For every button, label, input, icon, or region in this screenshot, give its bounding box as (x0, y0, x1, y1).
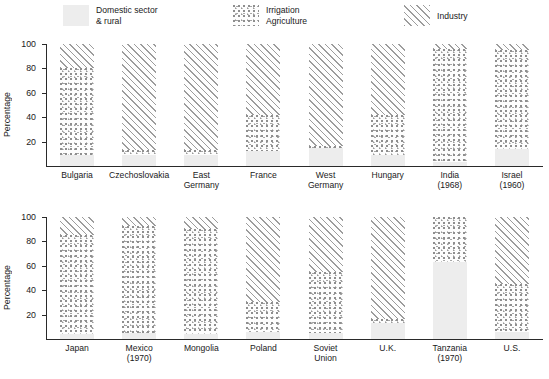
bar-mexico-1970 (122, 217, 156, 339)
x-axis-label: Israel (1960) (476, 170, 548, 191)
bar-segment-industry (309, 217, 343, 272)
bar-india-1968 (433, 44, 467, 166)
y-axis-tick-label: 60 (26, 261, 36, 270)
bar-poland (246, 217, 280, 339)
bar-segment-domestic (309, 333, 343, 339)
bar-segment-domestic (495, 149, 529, 166)
bar-segment-industry (122, 44, 156, 150)
bar-segment-domestic (371, 155, 405, 166)
y-axis-tick-label: 60 (26, 88, 36, 97)
bar-segment-industry (60, 217, 94, 235)
bar-segment-agriculture (309, 272, 343, 333)
y-axis-tick-label: 20 (26, 137, 36, 146)
bar-segment-domestic (371, 323, 405, 339)
bar-japan (60, 217, 94, 339)
bar-segment-industry (122, 217, 156, 226)
chart-legend: Domestic sector & rural Irrigation Agric… (0, 0, 549, 34)
bar-segment-agriculture (495, 284, 529, 332)
y-axis-tick-label: 100 (21, 40, 36, 49)
legend-item-irrigation-agriculture: Irrigation Agriculture (233, 5, 307, 26)
bar-u-k (371, 217, 405, 339)
bar-segment-industry (495, 217, 529, 284)
bar-group-top (46, 44, 543, 166)
legend-swatch-domestic-icon (63, 5, 89, 26)
bar-segment-agriculture (246, 302, 280, 331)
bar-segment-agriculture (495, 50, 529, 149)
bar-segment-agriculture (371, 115, 405, 155)
bar-bulgaria (60, 44, 94, 166)
chart-panel-top: Percentage 20406080100 BulgariaCzechoslo… (0, 36, 549, 198)
y-axis-tick-label: 40 (26, 286, 36, 295)
bar-segment-industry (184, 44, 218, 150)
y-axis-tick-label: 80 (26, 237, 36, 246)
bar-segment-industry (60, 44, 94, 68)
y-axis-tick-label: 80 (26, 64, 36, 73)
x-axis-labels-bottom: JapanMexico (1970)MongoliaPolandSoviet U… (46, 343, 543, 369)
bar-segment-domestic (433, 162, 467, 166)
y-axis-tick-label: 100 (21, 213, 36, 222)
bar-segment-domestic (309, 148, 343, 166)
bar-israel-1960 (495, 44, 529, 166)
legend-label-domestic: Domestic sector & rural (96, 5, 158, 26)
legend-item-domestic: Domestic sector & rural (63, 5, 158, 26)
bar-east-germany (184, 44, 218, 166)
bar-segment-industry (246, 217, 280, 302)
bar-segment-domestic (184, 155, 218, 166)
bar-segment-industry (371, 217, 405, 319)
plot-area-top: 20406080100 (46, 44, 543, 166)
bar-segment-domestic (60, 334, 94, 339)
y-axis-label-bottom: Percentage (2, 243, 14, 333)
bar-segment-agriculture (60, 235, 94, 334)
bar-segment-domestic (122, 155, 156, 166)
bar-segment-domestic (246, 332, 280, 339)
chart-panel-bottom: Percentage 20406080100 JapanMexico (1970… (0, 209, 549, 371)
bar-group-bottom (46, 217, 543, 339)
bar-segment-domestic (495, 332, 529, 339)
bar-segment-agriculture (60, 68, 94, 155)
y-axis-tick-label: 20 (26, 310, 36, 319)
legend-item-industry: Industry (404, 5, 468, 26)
x-axis-labels-top: BulgariaCzechoslovakiaEast GermanyFrance… (46, 170, 543, 196)
bar-segment-agriculture (246, 115, 280, 152)
bar-segment-domestic (433, 262, 467, 339)
bar-tanzania-1970 (433, 217, 467, 339)
bar-hungary (371, 44, 405, 166)
legend-label-agriculture: Irrigation Agriculture (266, 5, 307, 26)
bar-segment-agriculture (433, 49, 467, 162)
bar-czechoslovakia (122, 44, 156, 166)
legend-label-industry: Industry (437, 5, 468, 22)
y-axis-tick-label: 40 (26, 113, 36, 122)
bar-segment-industry (184, 217, 218, 229)
bar-segment-industry (371, 44, 405, 115)
bar-segment-agriculture (184, 229, 218, 334)
bar-u-s (495, 217, 529, 339)
legend-swatch-agriculture-icon (233, 5, 259, 26)
bar-segment-domestic (122, 333, 156, 339)
y-axis-label-top: Percentage (2, 70, 14, 160)
bar-segment-domestic (184, 334, 218, 339)
bar-segment-agriculture (433, 217, 467, 262)
bar-segment-industry (246, 44, 280, 115)
bar-west-germany (309, 44, 343, 166)
bar-segment-agriculture (122, 226, 156, 333)
x-axis-line-bottom (46, 339, 543, 340)
bar-segment-domestic (60, 155, 94, 166)
bar-segment-industry (309, 44, 343, 146)
bar-soviet-union (309, 217, 343, 339)
bar-france (246, 44, 280, 166)
x-axis-label: U.S. (476, 343, 548, 353)
legend-swatch-industry-icon (404, 5, 430, 26)
x-axis-line-top (46, 166, 543, 167)
bar-segment-domestic (246, 151, 280, 166)
plot-area-bottom: 20406080100 (46, 217, 543, 339)
bar-mongolia (184, 217, 218, 339)
